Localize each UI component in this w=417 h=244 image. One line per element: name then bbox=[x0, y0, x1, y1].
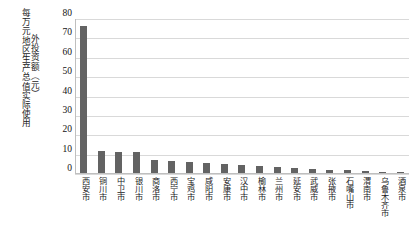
bar-slot bbox=[93, 19, 111, 173]
x-axis-tick-铜川市: 铜川市 bbox=[97, 177, 105, 201]
bar-slot bbox=[339, 19, 357, 173]
x-axis-tick-银川市: 银川市 bbox=[132, 177, 140, 201]
x-axis-tick-石嘴山市: 石嘴山市 bbox=[343, 177, 351, 209]
bar-银川市[interactable] bbox=[133, 152, 140, 173]
bar-渭南市[interactable] bbox=[362, 171, 369, 173]
plot-area bbox=[75, 19, 409, 174]
x-tick-slot: 榆林市 bbox=[251, 177, 269, 201]
x-tick-slot: 中卫市 bbox=[110, 177, 128, 201]
y-axis-tick-labels: 80706050403020100 bbox=[48, 14, 72, 174]
bar-slot bbox=[145, 19, 163, 173]
x-tick-slot: 商洛市 bbox=[145, 177, 163, 201]
x-tick-slot: 银川市 bbox=[128, 177, 146, 201]
x-axis-tick-武威市: 武威市 bbox=[308, 177, 316, 201]
bar-中卫市[interactable] bbox=[115, 152, 122, 173]
bar-兰州市[interactable] bbox=[274, 167, 281, 173]
y-axis-tick-80: 80 bbox=[63, 9, 73, 19]
y-axis-tick-20: 20 bbox=[63, 126, 73, 136]
x-axis-tick-乌鲁木齐市: 乌鲁木齐市 bbox=[379, 177, 387, 217]
bar-榆林市[interactable] bbox=[256, 166, 263, 173]
bar-武威市[interactable] bbox=[309, 169, 316, 173]
y-axis-tick-40: 40 bbox=[63, 87, 73, 97]
x-axis-tick-labels: 西安市铜川市中卫市银川市商洛市西宁市宝鸡市咸阳市安康市汉中市榆林市兰州市延安市武… bbox=[75, 177, 409, 241]
bar-张掖市[interactable] bbox=[326, 170, 333, 173]
bar-slot bbox=[128, 19, 146, 173]
bar-铜川市[interactable] bbox=[98, 151, 105, 173]
x-axis-tick-张掖市: 张掖市 bbox=[326, 177, 334, 201]
bar-石嘴山市[interactable] bbox=[344, 170, 351, 173]
x-tick-slot: 汉中市 bbox=[233, 177, 251, 201]
bar-延安市[interactable] bbox=[291, 168, 298, 173]
y-axis-tick-70: 70 bbox=[63, 29, 73, 39]
x-axis-tick-酒泉市: 酒泉市 bbox=[396, 177, 404, 201]
x-tick-slot: 西安市 bbox=[75, 177, 93, 201]
y-axis-tick-10: 10 bbox=[63, 145, 73, 155]
bar-slot bbox=[268, 19, 286, 173]
x-axis-tick-西安市: 西安市 bbox=[80, 177, 88, 201]
x-tick-slot: 西宁市 bbox=[163, 177, 181, 201]
bar-slot bbox=[321, 19, 339, 173]
x-tick-slot: 武威市 bbox=[304, 177, 322, 201]
bar-slot bbox=[356, 19, 374, 173]
bar-slot bbox=[216, 19, 234, 173]
y-axis-tick-30: 30 bbox=[63, 106, 73, 116]
x-tick-slot: 乌鲁木齐市 bbox=[374, 177, 392, 217]
x-tick-slot: 宝鸡市 bbox=[180, 177, 198, 201]
x-axis-tick-延安市: 延安市 bbox=[291, 177, 299, 201]
x-axis-tick-渭南市: 渭南市 bbox=[361, 177, 369, 201]
x-axis-tick-汉中市: 汉中市 bbox=[238, 177, 246, 201]
bar-slot bbox=[198, 19, 216, 173]
x-tick-slot: 铜川市 bbox=[93, 177, 111, 201]
bar-slot bbox=[233, 19, 251, 173]
bar-slot bbox=[304, 19, 322, 173]
bar-slot bbox=[374, 19, 392, 173]
x-axis-tick-安康市: 安康市 bbox=[220, 177, 228, 201]
bar-slot bbox=[251, 19, 269, 173]
y-axis-tick-0: 0 bbox=[67, 164, 72, 174]
x-axis-tick-榆林市: 榆林市 bbox=[255, 177, 263, 201]
y-axis-title-line-1: 每万元地区生产总值实际使用 bbox=[20, 8, 29, 180]
x-tick-slot: 兰州市 bbox=[268, 177, 286, 201]
x-tick-slot: 石嘴山市 bbox=[339, 177, 357, 209]
x-axis-line bbox=[75, 173, 409, 174]
x-tick-slot: 安康市 bbox=[216, 177, 234, 201]
x-axis-tick-咸阳市: 咸阳市 bbox=[203, 177, 211, 201]
y-axis-title-line-2: 外投资额（元） bbox=[29, 8, 38, 206]
x-tick-slot: 咸阳市 bbox=[198, 177, 216, 201]
gridline-0 bbox=[75, 174, 409, 175]
bar-slot bbox=[286, 19, 304, 173]
x-tick-slot: 张掖市 bbox=[321, 177, 339, 201]
bar-slot bbox=[391, 19, 409, 173]
bar-汉中市[interactable] bbox=[238, 165, 245, 173]
bar-西宁市[interactable] bbox=[168, 161, 175, 173]
bar-slot bbox=[180, 19, 198, 173]
bar-series bbox=[75, 19, 409, 173]
bar-商洛市[interactable] bbox=[151, 160, 158, 173]
bar-酒泉市[interactable] bbox=[397, 172, 404, 173]
bar-安康市[interactable] bbox=[221, 164, 228, 173]
x-axis-tick-西宁市: 西宁市 bbox=[168, 177, 176, 201]
x-tick-slot: 渭南市 bbox=[356, 177, 374, 201]
bar-slot bbox=[163, 19, 181, 173]
x-axis-tick-中卫市: 中卫市 bbox=[115, 177, 123, 201]
bar-chart: 每万元地区生产总值实际使用 外投资额（元） 80706050403020100 … bbox=[0, 0, 417, 244]
bar-西安市[interactable] bbox=[80, 26, 87, 173]
y-axis-tick-60: 60 bbox=[63, 48, 73, 58]
x-axis-tick-兰州市: 兰州市 bbox=[273, 177, 281, 201]
bar-slot bbox=[75, 19, 93, 173]
bar-宝鸡市[interactable] bbox=[186, 162, 193, 173]
bar-slot bbox=[110, 19, 128, 173]
y-axis-title: 每万元地区生产总值实际使用 外投资额（元） bbox=[20, 8, 50, 180]
x-axis-tick-商洛市: 商洛市 bbox=[150, 177, 158, 201]
x-axis-tick-宝鸡市: 宝鸡市 bbox=[185, 177, 193, 201]
y-axis-tick-50: 50 bbox=[63, 67, 73, 77]
bar-咸阳市[interactable] bbox=[203, 163, 210, 173]
x-tick-slot: 延安市 bbox=[286, 177, 304, 201]
bar-乌鲁木齐市[interactable] bbox=[379, 172, 386, 173]
x-tick-slot: 酒泉市 bbox=[391, 177, 409, 201]
